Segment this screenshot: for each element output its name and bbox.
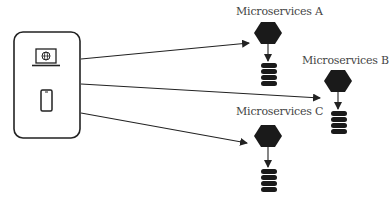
service-b-hexagon-icon <box>324 70 352 92</box>
service-b-database-icon <box>331 111 347 134</box>
client-device-box <box>14 32 80 138</box>
service-c-label: Microservices C <box>236 105 323 118</box>
arrow-to-service-c <box>81 113 247 143</box>
arrow-to-service-a <box>81 43 249 59</box>
service-a-database-icon <box>261 63 277 86</box>
service-a-hexagon-icon <box>254 22 282 44</box>
service-a-label: Microservices A <box>236 5 323 18</box>
smartphone-icon <box>41 90 52 111</box>
service-c-database-icon <box>261 169 277 192</box>
service-c-hexagon-icon <box>254 125 282 147</box>
arrow-to-service-b <box>81 84 320 98</box>
laptop-globe-icon <box>32 49 60 66</box>
service-b-label: Microservices B <box>302 54 389 67</box>
